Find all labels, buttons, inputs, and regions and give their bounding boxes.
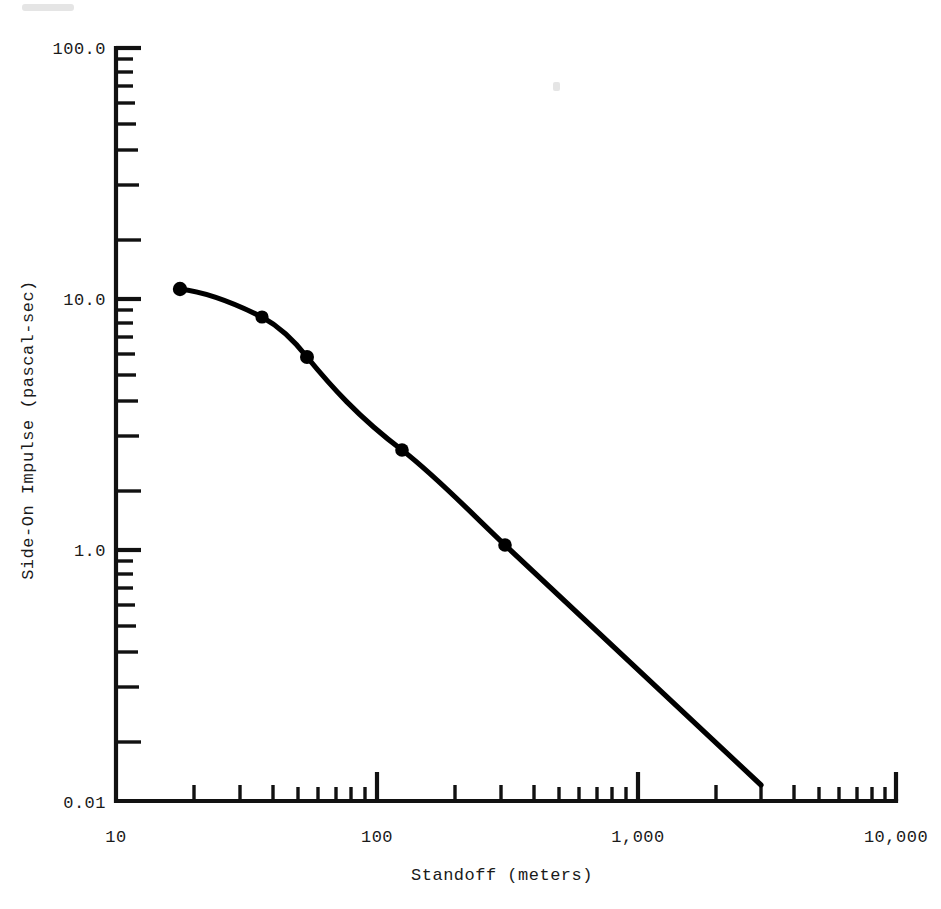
data-point-marker: [300, 350, 314, 364]
data-point-marker: [173, 282, 187, 296]
y-tick-label-001: 0.01: [63, 794, 106, 813]
data-point-marker: [498, 538, 512, 552]
x-tick-label-10: 10: [105, 828, 126, 847]
x-axis-ticks: [194, 772, 896, 801]
y-tick-label-1: 1.0: [74, 542, 106, 561]
x-tick-label-1000: 1,000: [611, 828, 665, 847]
y-tick-label-100: 100.0: [52, 40, 106, 59]
x-axis-title: Standoff (meters): [411, 866, 593, 885]
y-axis-ticks: [116, 48, 141, 742]
data-point-marker: [255, 310, 268, 323]
x-tick-label-100: 100: [361, 828, 393, 847]
figure-root: 100.0 10.0 1.0 0.01 10 100 1,000 10,000 …: [0, 0, 941, 909]
y-axis-title: Side-On Impulse (pascal-sec): [19, 280, 38, 580]
y-tick-label-10: 10.0: [63, 291, 106, 310]
x-tick-labels: 10 100 1,000 10,000: [105, 828, 928, 847]
data-curve: [180, 289, 761, 785]
axis-lines: [116, 48, 896, 801]
x-tick-label-10000: 10,000: [864, 828, 928, 847]
y-tick-labels: 100.0 10.0 1.0 0.01: [52, 40, 106, 813]
data-point-marker: [395, 443, 409, 457]
data-series-side-on-impulse: [173, 282, 761, 785]
log-log-chart: 100.0 10.0 1.0 0.01 10 100 1,000 10,000 …: [0, 0, 941, 909]
